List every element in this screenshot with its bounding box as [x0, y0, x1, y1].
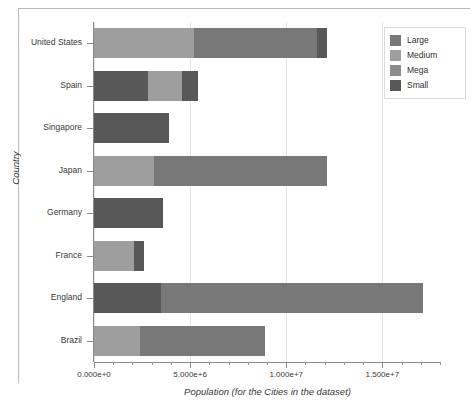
y-tick-label: England — [6, 292, 82, 302]
legend-item[interactable]: Small — [390, 78, 459, 93]
legend-label: Small — [407, 80, 428, 91]
y-tick-label: Spain — [6, 80, 82, 90]
x-tick-minor — [132, 362, 133, 365]
x-tick-label: 1.000e+7 — [269, 370, 303, 379]
bar-segment — [148, 71, 183, 101]
x-tick-minor — [229, 362, 230, 365]
x-tick-major — [94, 362, 95, 368]
bar-segment — [182, 71, 197, 101]
x-tick-minor — [440, 362, 441, 365]
legend: LargeMediumMegaSmall — [384, 27, 466, 99]
x-tick-minor — [363, 362, 364, 365]
x-tick-minor — [344, 362, 345, 365]
x-tick-major — [286, 362, 287, 368]
x-tick-major — [190, 362, 191, 368]
y-tick — [87, 43, 94, 44]
bar-segment — [94, 113, 169, 143]
legend-label: Large — [407, 35, 429, 46]
y-tick — [87, 256, 94, 257]
y-tick — [87, 171, 94, 172]
x-tick-minor — [152, 362, 153, 365]
bar-segment — [94, 241, 134, 271]
x-tick-minor — [421, 362, 422, 365]
legend-swatch-icon — [390, 35, 401, 46]
bar-segment — [94, 28, 194, 58]
x-tick-minor — [325, 362, 326, 365]
y-tick-label: United States — [6, 37, 82, 47]
y-tick — [87, 213, 94, 214]
y-tick-label: Singapore — [6, 122, 82, 132]
bar-group — [94, 283, 440, 313]
bar-segment — [94, 71, 148, 101]
legend-label: Mega — [407, 65, 428, 76]
bar-segment — [154, 156, 327, 186]
bar-segment — [161, 283, 422, 313]
bar-segment — [94, 326, 140, 356]
legend-item[interactable]: Large — [390, 33, 459, 48]
bar-group — [94, 198, 440, 228]
x-tick-minor — [402, 362, 403, 365]
bar-segment — [317, 28, 327, 58]
y-tick — [87, 341, 94, 342]
y-tick-label: Japan — [6, 165, 82, 175]
x-tick-minor — [209, 362, 210, 365]
bar-segment — [94, 156, 154, 186]
y-tick — [87, 298, 94, 299]
y-tick-label: Germany — [6, 207, 82, 217]
x-tick-label: 0.000e+0 — [77, 370, 111, 379]
legend-item[interactable]: Mega — [390, 63, 459, 78]
x-tick-minor — [248, 362, 249, 365]
legend-swatch-icon — [390, 80, 401, 91]
legend-item[interactable]: Medium — [390, 48, 459, 63]
bar-group — [94, 113, 440, 143]
x-axis-title: Population (for the Cities in the datase… — [94, 386, 441, 397]
x-tick-label: 1.500e+7 — [366, 370, 400, 379]
y-tick-label: France — [6, 250, 82, 260]
bar-segment — [194, 28, 317, 58]
x-tick-minor — [171, 362, 172, 365]
bar-segment — [94, 198, 163, 228]
bar-segment — [140, 326, 265, 356]
bar-segment — [134, 241, 144, 271]
x-tick-minor — [267, 362, 268, 365]
legend-swatch-icon — [390, 65, 401, 76]
frame-top-rule — [18, 8, 470, 9]
y-tick-label: Brazil — [6, 335, 82, 345]
x-tick-label: 5.000e+6 — [173, 370, 207, 379]
x-tick-minor — [305, 362, 306, 365]
x-tick-major — [382, 362, 383, 368]
bar-group — [94, 241, 440, 271]
y-axis-line — [93, 22, 94, 362]
bar-group — [94, 326, 440, 356]
bar-group — [94, 156, 440, 186]
x-tick-minor — [113, 362, 114, 365]
legend-label: Medium — [407, 50, 437, 61]
chart-container: Country United StatesSpainSingaporeJapan… — [0, 0, 474, 409]
y-tick — [87, 128, 94, 129]
y-tick — [87, 86, 94, 87]
legend-swatch-icon — [390, 50, 401, 61]
bar-segment — [94, 283, 161, 313]
